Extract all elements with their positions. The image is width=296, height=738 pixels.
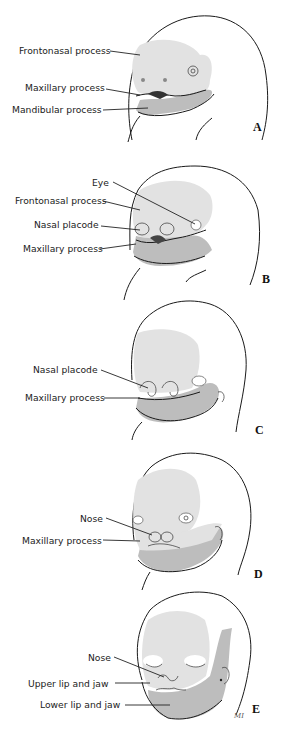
panel-d-eye-right — [179, 513, 193, 523]
panel-d-label-maxillary: Maxillary process — [22, 535, 102, 546]
panel-b-maxillary-region — [133, 236, 212, 266]
facial-development-figure: Frontonasal process Maxillary process Ma… — [0, 0, 296, 738]
panel-e-eye-left — [143, 655, 163, 667]
artist-signature: MI — [233, 712, 244, 720]
panel-d-eye-left — [133, 516, 143, 524]
panel-e: Nose Upper lip and jaw Lower lip and jaw… — [28, 592, 260, 720]
panel-e-label-lower-lip-jaw: Lower lip and jaw — [40, 699, 121, 710]
panel-a-nasal-dot-left — [141, 78, 145, 82]
panel-a-leader-maxillary — [106, 89, 140, 95]
panel-e-letter: E — [252, 702, 260, 716]
panel-a-frontonasal-region — [132, 40, 212, 97]
panel-b-label-eye: Eye — [92, 177, 109, 188]
panel-e-label-upper-lip-jaw: Upper lip and jaw — [28, 678, 109, 689]
panel-d-label-nose: Nose — [80, 513, 103, 524]
panel-c-label-maxillary: Maxillary process — [25, 392, 105, 403]
panel-b-letter: B — [262, 272, 270, 286]
panel-a-nasal-dot-right — [163, 78, 167, 82]
panel-a: Frontonasal process Maxillary process Ma… — [12, 16, 268, 142]
panel-e-upper-face-region — [142, 611, 210, 690]
panel-b: Eye Frontonasal process Nasal placode Ma… — [15, 166, 270, 300]
panel-c-eye — [192, 376, 206, 386]
panel-b-eye — [191, 220, 201, 230]
panel-b-frontonasal-region — [133, 181, 213, 239]
panel-d-letter: D — [254, 567, 263, 581]
panel-e-label-nose: Nose — [88, 652, 111, 663]
panel-a-label-frontonasal: Frontonasal process — [19, 45, 111, 56]
panel-b-leader-maxillary — [100, 244, 136, 249]
panel-b-label-nasal-placode: Nasal placode — [34, 219, 99, 230]
panel-a-label-mandibular: Mandibular process — [12, 104, 102, 115]
panel-b-label-frontonasal: Frontonasal process — [15, 195, 107, 206]
panel-a-letter: A — [253, 120, 262, 134]
panel-c-letter: C — [255, 423, 264, 437]
panel-b-label-maxillary: Maxillary process — [23, 243, 103, 254]
panel-a-label-maxillary: Maxillary process — [25, 82, 105, 93]
panel-d-leader-maxillary — [103, 540, 140, 541]
panel-c: Nasal placode Maxillary process C — [25, 301, 264, 440]
panel-c-label-nasal-placode: Nasal placode — [33, 364, 98, 375]
panel-d: Nose Maxillary process D — [22, 453, 263, 590]
